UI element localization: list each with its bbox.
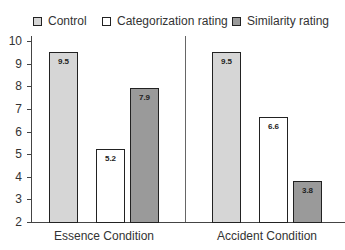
legend-label: Categorization rating [117, 14, 228, 28]
tick [27, 222, 31, 223]
bar-value-label: 5.2 [97, 154, 124, 163]
tick [27, 64, 31, 65]
y-axis [31, 36, 32, 222]
bar-accident-similarity: 3.8 [293, 181, 322, 223]
tick [27, 109, 31, 110]
bar-accident-categorization: 6.6 [259, 117, 288, 223]
tick [27, 41, 31, 42]
category-label-essence: Essence Condition [34, 229, 174, 243]
bar-value-label: 9.5 [50, 57, 77, 66]
bar-value-label: 7.9 [131, 93, 158, 102]
bar-accident-control: 9.5 [212, 52, 241, 223]
legend-swatch-similarity [232, 17, 241, 26]
tick-label: 8 [0, 80, 22, 92]
tick-label: 7 [0, 103, 22, 115]
tick-label: 9 [0, 58, 22, 70]
tick-label: 3 [0, 193, 22, 205]
tick-label: 2 [0, 216, 22, 228]
legend-item-categorization: Categorization rating [102, 14, 228, 28]
tick [27, 199, 31, 200]
category-label-accident: Accident Condition [197, 229, 337, 243]
tick [27, 177, 31, 178]
legend-item-similarity: Similarity rating [232, 14, 329, 28]
tick [27, 132, 31, 133]
bar-value-label: 9.5 [213, 57, 240, 66]
bar-essence-categorization: 5.2 [96, 149, 125, 223]
legend-label: Control [48, 14, 87, 28]
legend: Control Categorization rating Similarity… [0, 14, 345, 30]
tick [27, 154, 31, 155]
legend-label: Similarity rating [247, 14, 329, 28]
legend-swatch-control [33, 17, 42, 26]
legend-swatch-categorization [102, 17, 111, 26]
tick-label: 4 [0, 171, 22, 183]
condition-divider [185, 36, 186, 222]
bar-value-label: 6.6 [260, 122, 287, 131]
tick-label: 6 [0, 126, 22, 138]
bar-essence-similarity: 7.9 [130, 88, 159, 223]
tick [27, 86, 31, 87]
legend-item-control: Control [33, 14, 87, 28]
bar-value-label: 3.8 [294, 186, 321, 195]
bar-essence-control: 9.5 [49, 52, 78, 223]
tick-label: 10 [0, 35, 22, 47]
tick-label: 5 [0, 148, 22, 160]
